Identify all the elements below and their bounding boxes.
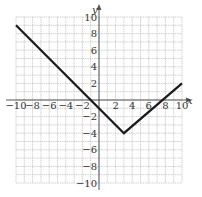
svg-text:2: 2: [112, 100, 118, 111]
svg-text:8: 8: [162, 100, 168, 111]
svg-text:4: 4: [91, 61, 97, 72]
svg-text:−8: −8: [82, 161, 97, 172]
svg-text:6: 6: [91, 45, 97, 56]
axes: [6, 4, 192, 190]
x-axis-label: x: [187, 95, 193, 106]
svg-text:8: 8: [91, 28, 97, 39]
svg-text:−4: −4: [58, 100, 73, 111]
svg-text:−4: −4: [82, 128, 97, 139]
svg-text:−2: −2: [82, 111, 97, 122]
y-axis-label: y: [91, 4, 98, 15]
svg-text:2: 2: [91, 78, 97, 89]
svg-text:−6: −6: [82, 144, 97, 155]
svg-text:−2: −2: [75, 100, 90, 111]
svg-text:−10: −10: [5, 100, 26, 111]
svg-text:−6: −6: [42, 100, 57, 111]
coordinate-plane: −10−8−6−4−2246810108642−2−4−6−8−10 x y: [0, 0, 202, 197]
svg-text:−10: −10: [76, 178, 97, 189]
svg-text:4: 4: [129, 100, 135, 111]
svg-text:−8: −8: [25, 100, 40, 111]
